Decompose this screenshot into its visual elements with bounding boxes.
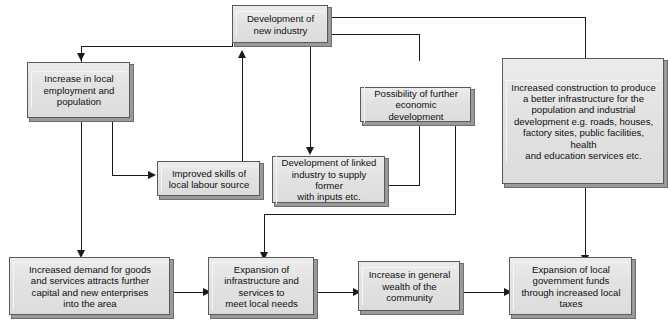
edge-increased-construction-to-new-industry-horizontal: [327, 17, 586, 18]
node-increase-in-general-wealth[interactable]: Increase in generalwealth of thecommunit…: [358, 261, 460, 311]
node-label-improved-skills: Improved skills oflocal labour source: [161, 166, 256, 192]
node-expansion-of-local-government-funds[interactable]: Expansion of localgovernment fundsthroug…: [509, 257, 632, 315]
arrowhead-new-industry-from-skills: [238, 50, 246, 58]
node-label-increase-in-general-wealth: Increase in generalwealth of thecommunit…: [362, 267, 456, 304]
edge-to-expansion-infrastructure-horizontal: [264, 214, 456, 215]
edge-increased-construction-to-local-government-funds: [585, 184, 586, 257]
node-development-of-linked-industry[interactable]: Development of linkedindustry to supply …: [272, 156, 385, 203]
edge-improved-skills-to-new-industry: [242, 53, 243, 161]
node-possibility-of-further-economic-development[interactable]: Possibility of furthereconomic developme…: [360, 87, 471, 122]
edge-local-employment-to-improved-skills-vertical: [112, 118, 113, 176]
edge-increased-demand-to-expansion-infrastructure: [170, 292, 205, 293]
node-increased-construction[interactable]: Increased construction to producea bette…: [502, 58, 664, 184]
edge-linked-industry-to-economic-development-vertical: [419, 122, 420, 186]
edge-general-wealth-to-local-government-funds: [460, 292, 507, 293]
edge-new-industry-to-linked-industry: [310, 43, 311, 149]
arrowhead-linked-industry: [306, 147, 314, 155]
node-label-increase-in-local-employment: Increase in localemployment andpopulatio…: [31, 71, 126, 108]
flowchart-canvas: Development ofnew industry Increase in l…: [0, 0, 671, 328]
node-label-increased-construction: Increased construction to producea bette…: [506, 80, 660, 163]
edge-new-industry-down-to-construction: [585, 17, 586, 58]
node-label-expansion-of-infrastructure: Expansion ofinfrastructure andservices t…: [212, 262, 310, 311]
edge-to-expansion-infrastructure-vertical: [264, 214, 265, 254]
edge-local-employment-to-increased-demand: [81, 118, 82, 252]
node-increase-in-local-employment[interactable]: Increase in localemployment andpopulatio…: [27, 62, 130, 118]
node-label-development-of-new-industry: Development ofnew industry: [236, 11, 324, 37]
edge-local-employment-to-improved-skills-horizontal: [112, 175, 150, 176]
node-label-increased-demand: Increased demand for goodsand services a…: [13, 262, 166, 311]
edge-new-industry-to-local-employment-horizontal: [81, 46, 232, 47]
node-label-possibility-of-further-economic-development: Possibility of furthereconomic developme…: [364, 86, 467, 123]
node-label-development-of-linked-industry: Development of linkedindustry to supply …: [276, 155, 381, 204]
arrowhead-improved-skills: [148, 171, 156, 179]
arrowhead-local-employment: [77, 53, 85, 61]
node-development-of-new-industry[interactable]: Development ofnew industry: [232, 5, 328, 43]
node-expansion-of-infrastructure[interactable]: Expansion ofinfrastructure andservices t…: [208, 257, 314, 315]
edge-economic-development-riser: [419, 34, 420, 61]
edge-economic-development-down-to-bottom: [455, 122, 456, 215]
edge-economic-development-to-new-industry-horizontal: [327, 34, 420, 35]
edge-expansion-infrastructure-to-general-wealth: [314, 292, 356, 293]
node-increased-demand[interactable]: Increased demand for goodsand services a…: [9, 257, 170, 315]
node-improved-skills[interactable]: Improved skills oflocal labour source: [157, 161, 260, 196]
node-label-expansion-of-local-government-funds: Expansion of localgovernment fundsthroug…: [513, 262, 628, 311]
